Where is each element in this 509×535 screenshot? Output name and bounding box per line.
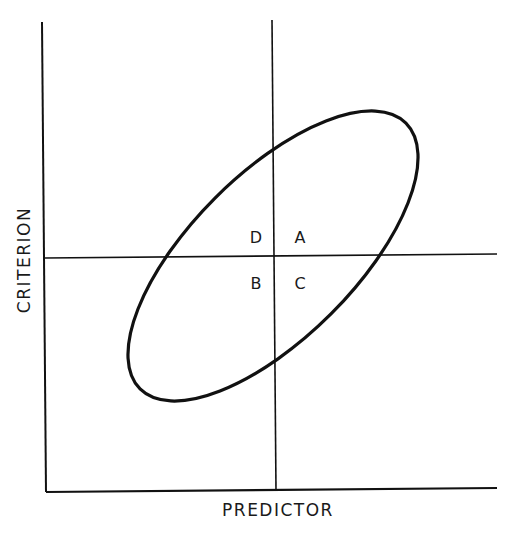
quadrant-label-c: C [294,274,305,293]
predictor-criterion-diagram: D A B C PREDICTOR CRITERION [0,0,509,535]
criterion-cutoff-line [45,254,497,258]
y-axis [42,22,46,492]
predictor-cutoff-line [272,20,276,490]
quadrant-label-a: A [295,228,306,247]
x-axis-title: PREDICTOR [222,500,334,520]
quadrant-label-d: D [250,228,262,247]
quadrant-label-b: B [251,274,262,293]
y-axis-title: CRITERION [14,207,34,313]
x-axis [46,488,497,492]
